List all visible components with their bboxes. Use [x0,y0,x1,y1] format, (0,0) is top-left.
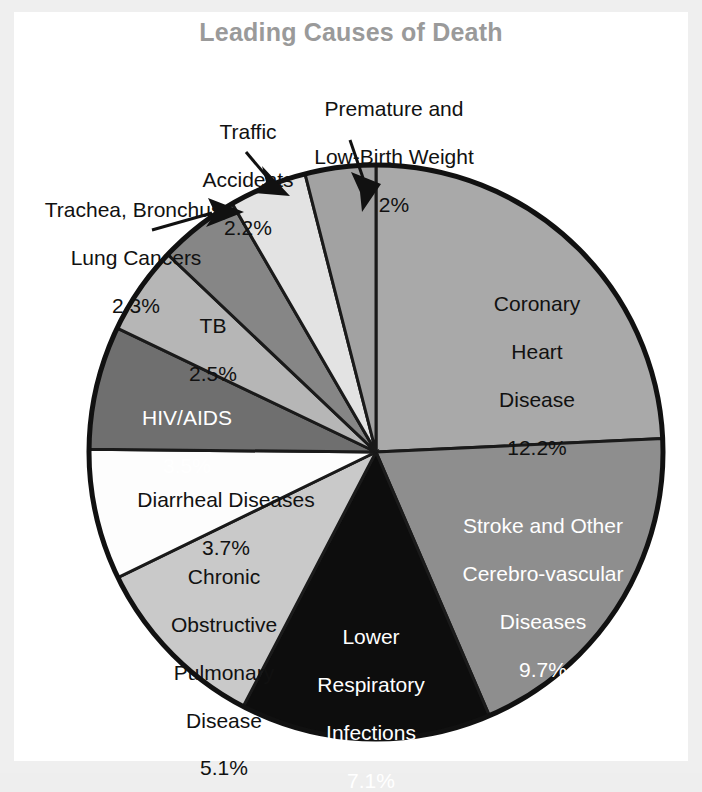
slice-value-coronary: 12.2% [452,436,622,460]
slice-label-coronary: Coronary Heart Disease 12.2% [452,268,622,483]
slice-value-hiv: 3.5% [112,454,262,478]
slice-value-lri: 7.1% [292,769,450,792]
slice-label-stroke-line3: Diseases [440,610,646,634]
slice-label-stroke-line1: Stroke and Other [440,514,646,538]
slice-label-copd-line3: Pulmonary [148,661,300,685]
slice-label-coronary-line1: Coronary [452,292,622,316]
callout-label-premature-line1: Premature and [286,97,502,121]
callout-label-premature: Premature and Low-Birth Weight 2% [286,73,502,241]
slice-label-coronary-line3: Disease [452,388,622,412]
slice-label-copd-line4: Disease [148,709,300,733]
slice-label-lri-line1: Lower [292,625,450,649]
slice-label-stroke-line2: Cerebro-vascular [440,562,646,586]
slice-value-copd: 5.1% [148,756,300,780]
slice-label-coronary-line2: Heart [452,340,622,364]
slice-label-lri-line3: Infections [292,721,450,745]
slice-label-stroke: Stroke and Other Cerebro-vascular Diseas… [440,490,646,705]
callout-label-premature-line2: Low-Birth Weight [286,145,502,169]
slice-value-tb: 2.5% [158,362,268,386]
callout-value-trachea: 2.3% [22,294,250,318]
slice-label-lri: Lower Respiratory Infections 7.1% [292,601,450,792]
callout-value-premature: 2% [286,193,502,217]
slice-label-lri-line2: Respiratory [292,673,450,697]
slice-label-copd-line2: Obstructive [148,613,300,637]
slice-value-diarrheal: 3.7% [110,536,342,560]
slice-value-stroke: 9.7% [440,658,646,682]
